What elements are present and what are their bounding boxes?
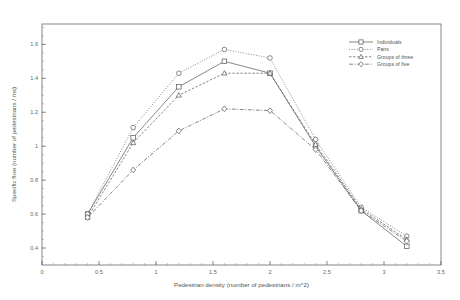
x-tick-label: 0.5: [95, 269, 103, 275]
data-point-marker: [359, 40, 363, 44]
x-tick-label: 1.5: [209, 269, 217, 275]
data-point-marker: [177, 84, 182, 89]
data-point-marker: [405, 244, 410, 249]
x-tick-label: 2: [268, 269, 271, 275]
data-point-marker: [177, 71, 182, 76]
line-chart: 00.511.522.533.5 0.40.60.811.21.41.6 Ind…: [0, 0, 460, 300]
y-tick-label: 0.4: [30, 245, 38, 251]
chart-background: [0, 0, 460, 300]
y-tick-label: 1.4: [30, 75, 38, 81]
data-point-marker: [222, 47, 227, 52]
legend-label: Individuals: [377, 39, 402, 45]
legend-label: Groups of three: [377, 54, 413, 60]
x-axis-title: Pedestrian density (number of pedestrian…: [174, 281, 309, 288]
data-point-marker: [268, 56, 273, 61]
data-point-marker: [222, 59, 227, 64]
data-point-marker: [359, 47, 363, 51]
y-tick-label: 0.6: [30, 211, 38, 217]
data-point-marker: [131, 125, 136, 130]
legend-label: Pairs: [377, 46, 389, 52]
data-point-marker: [313, 137, 318, 142]
x-tick-label: 3: [382, 269, 385, 275]
data-point-marker: [131, 135, 136, 140]
x-tick-label: 1: [154, 269, 157, 275]
legend-label: Groups of five: [377, 61, 409, 67]
chart-container: 00.511.522.533.5 0.40.60.811.21.41.6 Ind…: [0, 0, 460, 300]
x-tick-label: 0: [40, 269, 43, 275]
y-tick-label: 1.2: [30, 109, 38, 115]
x-tick-label: 3.5: [437, 269, 445, 275]
x-tick-label: 2.5: [323, 269, 331, 275]
y-axis-title: Specific flow (number of pedestrians / m…: [10, 87, 17, 202]
y-tick-label: 1.6: [30, 41, 38, 47]
y-tick-label: 1: [35, 143, 38, 149]
y-tick-label: 0.8: [30, 177, 38, 183]
